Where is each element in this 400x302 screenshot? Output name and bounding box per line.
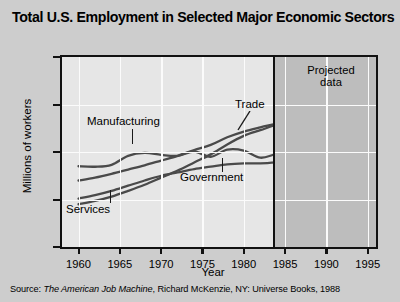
gridline-vertical <box>161 57 162 247</box>
leader-line-manufacturing <box>132 129 133 144</box>
x-axis-tick-label: 1975 <box>181 258 223 270</box>
projected-data-label: Projected data <box>294 64 368 89</box>
source-book-title: The American Job Machine <box>43 284 152 294</box>
x-axis-tick-label: 1985 <box>264 258 306 270</box>
projected-label-line2: data <box>320 76 342 88</box>
source-suffix: , Richard McKenzie, NY: Universe Books, … <box>153 284 341 294</box>
plot-area: 0102030401960196519701975198019851990199… <box>60 55 378 249</box>
series-label-trade: Trade <box>235 98 265 110</box>
series-label-manufacturing: Manufacturing <box>87 115 160 127</box>
leader-line-government <box>222 158 223 172</box>
x-axis-tick-label: 1995 <box>347 258 389 270</box>
source-note: Source: The American Job Machine, Richar… <box>10 284 340 294</box>
y-axis-tick <box>53 56 60 58</box>
source-prefix: Source: <box>10 284 43 294</box>
x-axis-tick <box>367 247 369 254</box>
leader-line-trade <box>236 111 252 131</box>
chart-title: Total U.S. Employment in Selected Major … <box>12 9 388 25</box>
y-axis-tick <box>53 151 60 153</box>
gridline-vertical <box>285 57 286 247</box>
x-axis-tick-label: 1990 <box>305 258 347 270</box>
leader-line-services <box>110 190 111 203</box>
x-axis-tick <box>119 247 121 254</box>
x-axis-tick <box>325 247 327 254</box>
y-axis-tick <box>53 104 60 106</box>
y-axis-tick <box>53 199 60 201</box>
y-axis-tick <box>53 246 60 248</box>
y-axis-title: Millions of workers <box>21 56 33 236</box>
x-axis-tick <box>78 247 80 254</box>
projected-label-line1: Projected <box>307 64 354 76</box>
gridline-vertical <box>120 57 121 247</box>
series-label-services: Services <box>66 203 110 215</box>
x-axis-tick <box>284 247 286 254</box>
x-axis-tick-label: 1965 <box>99 258 141 270</box>
x-axis-tick-label: 1980 <box>223 258 265 270</box>
x-axis-tick <box>160 247 162 254</box>
series-label-government: Government <box>180 171 243 183</box>
x-axis-tick-label: 1970 <box>140 258 182 270</box>
chart-figure: Total U.S. Employment in Selected Major … <box>0 0 400 302</box>
x-axis-tick <box>243 247 245 254</box>
x-axis-tick-label: 1960 <box>58 258 100 270</box>
gridline-horizontal <box>62 105 376 106</box>
x-axis-tick <box>201 247 203 254</box>
gridline-horizontal <box>62 152 376 153</box>
projection-divider-line <box>273 57 275 247</box>
gridline-vertical <box>79 57 80 247</box>
gridline-vertical <box>244 57 245 247</box>
gridline-vertical <box>202 57 203 247</box>
